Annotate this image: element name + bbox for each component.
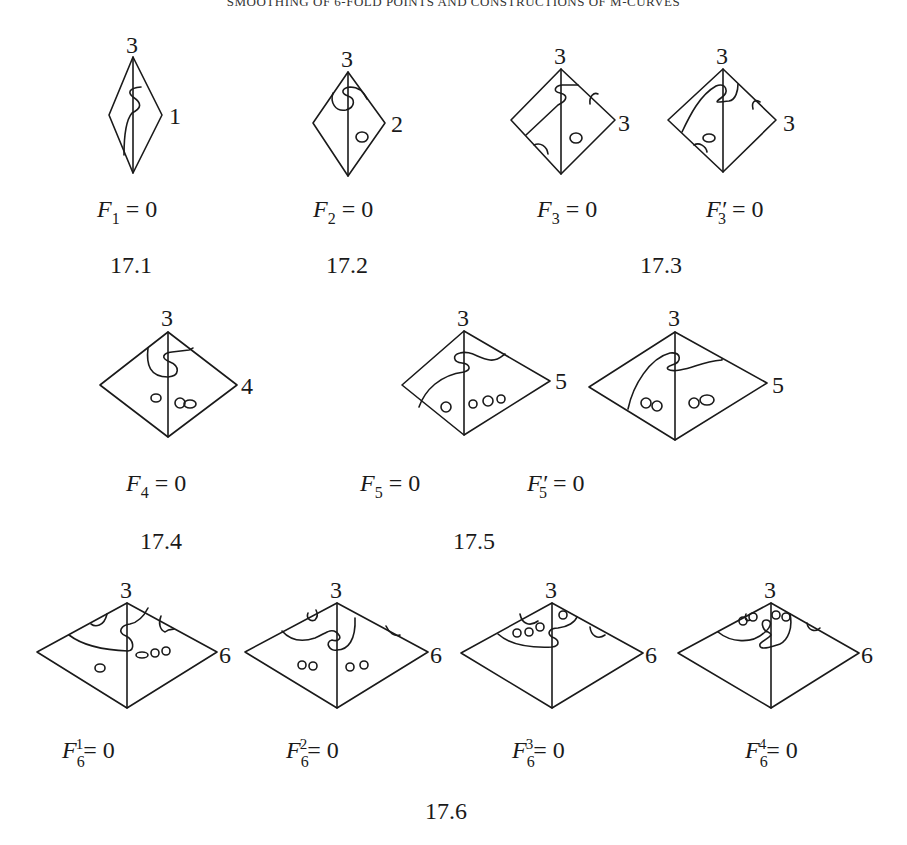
- eq-sub: 6: [301, 753, 309, 770]
- eq-rest: = 0: [560, 196, 598, 222]
- oval: [772, 611, 780, 619]
- eq-base: F: [537, 196, 552, 222]
- oval: [184, 400, 196, 408]
- half-oval: [386, 626, 400, 636]
- eq-sub: 3: [718, 210, 726, 227]
- eq-rest: = 0: [336, 196, 374, 222]
- eq-base: F: [62, 737, 77, 763]
- curve-branch: [69, 608, 148, 651]
- curve-branch: [718, 614, 791, 648]
- oval: [513, 629, 521, 637]
- rhombus-outline: [402, 331, 550, 435]
- diagram-17-3b: [668, 69, 776, 172]
- oval: [483, 396, 493, 406]
- eq-rest: = 0: [547, 470, 585, 496]
- eq-rest: = 0: [383, 470, 421, 496]
- oval: [298, 661, 306, 669]
- diagram-17-6-4: [678, 603, 859, 708]
- eq-base: F: [745, 737, 760, 763]
- diagram-17-4: [100, 332, 237, 437]
- vertex-label-side: 6: [645, 643, 657, 667]
- diagram-17-1: [109, 57, 162, 173]
- oval: [162, 647, 170, 655]
- eq-sub: 6: [77, 753, 85, 770]
- vertex-label-top: 3: [716, 44, 728, 68]
- equation-f3-prime: F′3 = 0: [706, 196, 763, 223]
- equation-f6-2: F62= 0: [286, 737, 339, 764]
- vertex-label-side: 6: [861, 643, 873, 667]
- eq-sup: 3: [526, 736, 534, 752]
- eq-sub: 5: [375, 484, 383, 501]
- vertex-label-side: 3: [618, 111, 630, 135]
- oval: [641, 398, 651, 408]
- vertex-label-top: 3: [330, 578, 342, 602]
- oval: [441, 402, 451, 412]
- eq-sub: 3: [552, 210, 560, 227]
- oval: [559, 611, 567, 619]
- curve-branch: [282, 618, 355, 650]
- vertex-label-top: 3: [120, 578, 132, 602]
- equation-f4: F4 = 0: [126, 470, 186, 497]
- vertex-label-top: 3: [545, 578, 557, 602]
- diagram-17-5b: [589, 332, 767, 440]
- oval: [151, 394, 161, 402]
- eq-base: F: [286, 737, 301, 763]
- eq-rest: = 0: [307, 737, 339, 763]
- oval: [700, 395, 714, 405]
- eq-sup: 4: [759, 736, 767, 752]
- caption-17-5: 17.5: [453, 528, 495, 555]
- caption-17-2: 17.2: [326, 252, 368, 279]
- oval: [749, 613, 757, 621]
- rhombus-outline: [109, 57, 162, 173]
- eq-base: F: [97, 196, 112, 222]
- vertex-label-top: 3: [126, 33, 138, 57]
- vertex-label-side: 4: [241, 374, 253, 398]
- vertex-label-top: 3: [161, 306, 173, 330]
- oval: [782, 613, 790, 621]
- caption-17-1: 17.1: [110, 252, 152, 279]
- vertex-label-side: 5: [555, 369, 567, 393]
- oval: [346, 663, 354, 671]
- oval: [497, 395, 505, 403]
- eq-rest: = 0: [766, 737, 798, 763]
- equation-f5-prime: F′5 = 0: [527, 470, 584, 497]
- rhombus-outline: [678, 603, 859, 708]
- curve-branch: [682, 84, 738, 132]
- caption-17-3: 17.3: [640, 252, 682, 279]
- eq-sub: 2: [328, 210, 336, 227]
- eq-rest: = 0: [83, 737, 115, 763]
- eq-sub: 5: [539, 484, 547, 501]
- oval: [536, 623, 544, 631]
- caption-17-4: 17.4: [140, 528, 182, 555]
- equation-f6-1: F61= 0: [62, 737, 115, 764]
- eq-sup: 2: [300, 736, 308, 752]
- eq-base: F: [512, 737, 527, 763]
- diagram-17-6-2: [245, 603, 428, 708]
- eq-sub: 6: [760, 753, 768, 770]
- vertex-label-side: 6: [430, 643, 442, 667]
- vertex-label-top: 3: [341, 47, 353, 71]
- equation-f2: F2 = 0: [313, 196, 373, 223]
- caption-17-6: 17.6: [425, 798, 467, 825]
- diagram-17-3a: [511, 69, 615, 174]
- vertex-label-top: 3: [668, 306, 680, 330]
- rhombus-outline: [668, 69, 776, 172]
- eq-rest: = 0: [149, 470, 187, 496]
- oval: [469, 400, 477, 408]
- diagram-17-2: [313, 72, 385, 176]
- vertex-label-side: 2: [391, 112, 403, 136]
- oval: [652, 401, 662, 411]
- vertex-label-side: 1: [169, 104, 181, 128]
- eq-sub: 1: [112, 210, 120, 227]
- oval: [356, 132, 368, 142]
- oval: [136, 652, 148, 658]
- curve-branch: [332, 87, 367, 110]
- eq-sub: 4: [141, 484, 149, 501]
- equation-f6-3: F63= 0: [512, 737, 565, 764]
- oval: [703, 134, 715, 142]
- diagram-17-6-1: [37, 603, 217, 708]
- vertex-label-side: 3: [783, 111, 795, 135]
- oval: [689, 398, 699, 408]
- vertex-label-top: 3: [554, 44, 566, 68]
- equation-f1: F1 = 0: [97, 196, 157, 223]
